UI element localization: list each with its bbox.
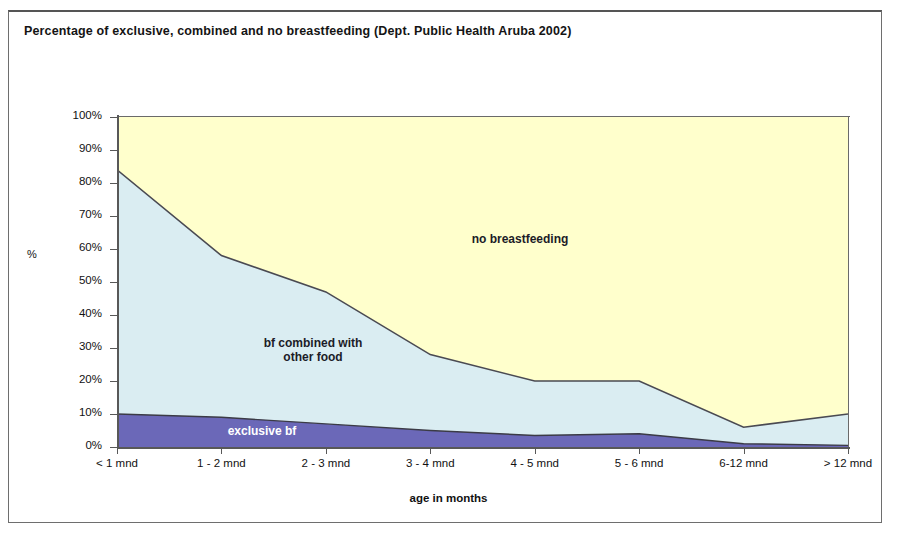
y-axis-tick-label: 20%: [79, 373, 102, 385]
y-axis-tick-label: 60%: [79, 241, 102, 253]
y-axis-tick: [110, 117, 117, 118]
y-axis-tick: [110, 414, 117, 415]
y-axis-tick-label: 90%: [79, 142, 102, 154]
x-axis-tick: [430, 448, 431, 454]
x-axis-tick: [221, 448, 222, 454]
x-axis-tick: [326, 448, 327, 454]
y-axis-tick: [110, 348, 117, 349]
series-label-bf-combined: bf combined with other food: [264, 337, 363, 365]
chart-plot-wrapper: 0%10%20%30%40%50%60%70%80%90%100% < 1 mn…: [0, 0, 897, 541]
x-axis-tick-label: 6-12 mnd: [719, 457, 768, 469]
x-axis-tick-label: 4 - 5 mnd: [510, 457, 559, 469]
plot-area: [117, 117, 848, 447]
x-axis-tick-label: < 1 mnd: [96, 457, 138, 469]
y-axis-tick-label: 50%: [79, 274, 102, 286]
stacked-area-chart-svg: [117, 117, 848, 447]
x-axis-tick: [535, 448, 536, 454]
y-axis-tick: [110, 282, 117, 283]
plot-border-right: [848, 116, 849, 449]
y-axis-tick-label: 10%: [79, 406, 102, 418]
screenshot-page: Percentage of exclusive, combined and no…: [0, 0, 897, 541]
x-axis-tick: [848, 448, 849, 454]
y-axis-tick-label: 70%: [79, 208, 102, 220]
y-axis-tick-label: 0%: [85, 439, 102, 451]
y-axis-tick: [110, 183, 117, 184]
series-label-no-breastfeeding: no breastfeeding: [472, 233, 569, 247]
x-axis-tick: [117, 448, 118, 454]
x-axis-tick: [639, 448, 640, 454]
y-axis-tick-label: 40%: [79, 307, 102, 319]
x-axis-tick: [744, 448, 745, 454]
plot-border-top: [117, 116, 850, 117]
y-axis-tick: [110, 381, 117, 382]
x-axis-tick-label: > 12 mnd: [824, 457, 872, 469]
y-axis-tick-label: 100%: [73, 109, 102, 121]
y-axis-title: %: [27, 248, 37, 260]
y-axis-tick: [110, 216, 117, 217]
y-axis-tick: [110, 447, 117, 448]
y-axis-tick: [110, 150, 117, 151]
x-axis-tick-label: 5 - 6 mnd: [615, 457, 664, 469]
y-axis-tick-label: 30%: [79, 340, 102, 352]
y-axis-tick: [110, 315, 117, 316]
x-axis-tick-label: 2 - 3 mnd: [302, 457, 351, 469]
x-axis-title: age in months: [0, 492, 897, 504]
y-axis-line: [117, 115, 119, 449]
x-axis-tick-label: 3 - 4 mnd: [406, 457, 455, 469]
x-axis-tick-label: 1 - 2 mnd: [197, 457, 246, 469]
y-axis-tick: [110, 249, 117, 250]
y-axis-tick-label: 80%: [79, 175, 102, 187]
x-axis-line: [117, 447, 850, 449]
series-label-exclusive-bf: exclusive bf: [228, 425, 297, 439]
